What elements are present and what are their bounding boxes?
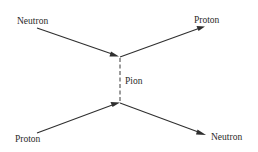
label-neutron-out: Neutron — [211, 132, 242, 142]
feynman-diagram: Neutron Proton Pion Proton Neutron — [0, 0, 258, 152]
incoming-proton-line — [37, 102, 120, 133]
arrowhead-icon — [197, 26, 206, 31]
arrowhead-icon — [111, 102, 121, 107]
outgoing-neutron-line — [120, 103, 206, 135]
outgoing-proton-line — [120, 26, 205, 57]
label-neutron-in: Neutron — [17, 16, 48, 26]
label-proton-out: Proton — [194, 15, 220, 25]
label-pion: Pion — [125, 76, 143, 86]
incoming-neutron-line — [37, 28, 119, 57]
arrowhead-icon — [196, 130, 206, 136]
arrowhead-icon — [110, 52, 120, 57]
label-proton-in: Proton — [15, 134, 41, 144]
